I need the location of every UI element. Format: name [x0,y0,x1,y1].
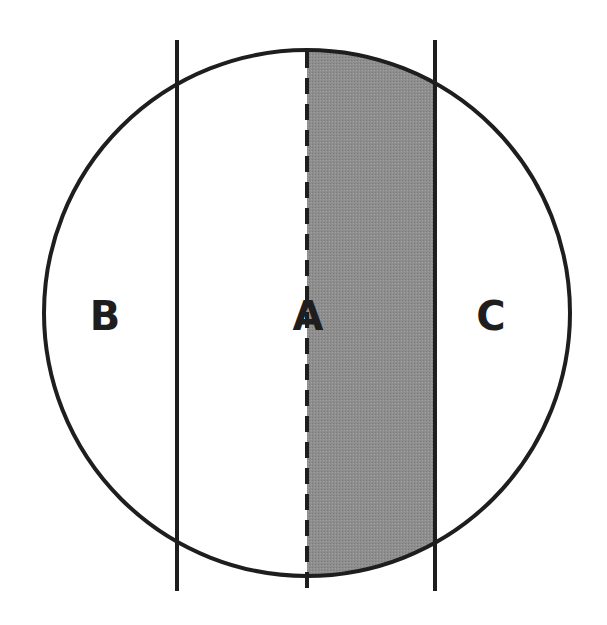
diagram-canvas: B A C [0,0,607,625]
label-a: A [293,293,324,339]
circle-strip-diagram: B A C [0,0,607,625]
shaded-region [307,40,435,600]
label-c: C [476,293,505,339]
label-b: B [90,293,121,339]
